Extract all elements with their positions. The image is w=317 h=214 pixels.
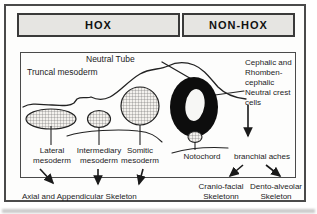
- neural-crest-cells-label: Cephalic and Rhomben- cephalic Neutral c…: [245, 58, 297, 108]
- crest-line-1: Cephalic and: [245, 58, 297, 68]
- branchial-arches-label: branchial aches: [228, 152, 296, 162]
- dento-alveolar-skeleton-label: Dento-alveolar Skeleton: [245, 182, 307, 201]
- axial-appendicular-skeleton-label: Axial and Appendicular Skeleton: [22, 192, 137, 202]
- neural-tube-label: Neutral Tube: [86, 55, 135, 65]
- somitic-mesoderm-label: Somitic mesoderm: [115, 146, 165, 165]
- truncal-mesoderm-label: Truncal mesoderm: [27, 68, 98, 78]
- mesoderm-bracket-line: [67, 130, 162, 142]
- somitic-mesoderm-shape: [121, 87, 159, 125]
- notochord-shape: [188, 132, 202, 143]
- crest-line-3: cephalic: [245, 78, 297, 88]
- crest-line-2: Rhomben-: [245, 68, 297, 78]
- arrow-branchial-to-dentoalveolar: [266, 165, 280, 176]
- crest-line-5: cells: [245, 98, 297, 108]
- intermediary-mesoderm-shape: [88, 111, 111, 128]
- cropped-caption-strip: [2, 209, 315, 213]
- crest-line-4: Neutral crest: [245, 88, 297, 98]
- arrow-lateral-to-axial: [40, 169, 53, 183]
- notochord-label: Notochord: [172, 152, 232, 162]
- arrow-somitic-to-axial: [139, 169, 143, 184]
- cranio-facial-skeleton-label: Cranio-facial Skeletonn: [193, 182, 249, 201]
- figure-canvas: HOX NON-HOX: [0, 0, 317, 214]
- arrow-branchial-to-craniofacial: [230, 165, 243, 176]
